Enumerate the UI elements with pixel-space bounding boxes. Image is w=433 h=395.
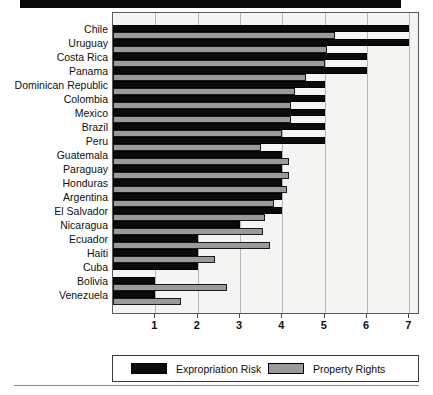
y-axis-label: Cuba (83, 261, 108, 273)
bar-expropriation-risk (113, 151, 282, 158)
y-axis-label: Uruguay (68, 37, 108, 49)
x-tick-7 (408, 314, 409, 318)
bars-layer (113, 13, 418, 313)
legend-item-property-rights: Property Rights (268, 356, 385, 381)
legend-item-expropriation-risk: Expropriation Risk (131, 356, 261, 381)
y-axis-label: El Salvador (54, 205, 108, 217)
bar-expropriation-risk (113, 165, 282, 172)
bar-expropriation-risk (113, 207, 282, 214)
bar-property-rights (113, 298, 181, 305)
y-axis-label: Nicaragua (60, 219, 108, 231)
bar-expropriation-risk (113, 291, 155, 298)
x-tick-label: 4 (269, 319, 293, 331)
y-axis-label: Bolivia (77, 275, 108, 287)
x-tick-4 (281, 314, 282, 318)
x-tick-label: 3 (227, 319, 251, 331)
chart-figure: ChileUruguayCosta RicaPanamaDominican Re… (0, 0, 433, 395)
legend-swatch-black (131, 363, 167, 374)
y-axis-label: Colombia (64, 93, 108, 105)
bar-expropriation-risk (113, 53, 367, 60)
plot-wrapper: ChileUruguayCosta RicaPanamaDominican Re… (0, 12, 433, 314)
bar-expropriation-risk (113, 179, 282, 186)
bar-expropriation-risk (113, 277, 155, 284)
legend-label: Property Rights (313, 363, 385, 375)
plot-area (112, 12, 419, 314)
bar-expropriation-risk (113, 67, 367, 74)
x-tick-2 (197, 314, 198, 318)
x-tick-5 (324, 314, 325, 318)
bar-expropriation-risk (113, 95, 325, 102)
y-axis-label: Dominican Republic (15, 79, 108, 91)
bar-expropriation-risk (113, 193, 282, 200)
x-tick-6 (366, 314, 367, 318)
x-tick-label: 5 (312, 319, 336, 331)
x-tick-label: 1 (142, 319, 166, 331)
top-rule-divider (20, 0, 401, 8)
legend-label: Expropriation Risk (176, 363, 261, 375)
y-axis-label: Guatemala (57, 149, 108, 161)
bar-expropriation-risk (113, 263, 198, 270)
bar-expropriation-risk (113, 221, 240, 228)
y-axis-label: Venezuela (59, 289, 108, 301)
y-axis-label: Costa Rica (57, 51, 108, 63)
y-axis-label: Argentina (63, 191, 108, 203)
y-axis-label: Panama (69, 65, 108, 77)
bar-expropriation-risk (113, 249, 198, 256)
x-tick-label: 6 (354, 319, 378, 331)
y-axis-labels: ChileUruguayCosta RicaPanamaDominican Re… (0, 12, 110, 314)
bar-expropriation-risk (113, 81, 325, 88)
bar-expropriation-risk (113, 235, 198, 242)
bar-expropriation-risk (113, 109, 325, 116)
y-axis-label: Paraguay (63, 163, 108, 175)
x-tick-1 (154, 314, 155, 318)
y-axis-label: Mexico (75, 107, 108, 119)
bar-expropriation-risk (113, 137, 325, 144)
y-axis-label: Chile (84, 23, 108, 35)
x-tick-3 (239, 314, 240, 318)
chart-legend: Expropriation RiskProperty Rights (112, 355, 419, 382)
x-tick-label: 2 (185, 319, 209, 331)
bar-expropriation-risk (113, 25, 409, 32)
x-axis: 1234567 (112, 314, 419, 336)
legend-swatch-gray (268, 363, 304, 374)
y-axis-label: Peru (86, 135, 108, 147)
y-axis-label: Haiti (87, 247, 108, 259)
y-axis-label: Brazil (82, 121, 108, 133)
bottom-rule-divider (14, 385, 419, 386)
y-axis-label: Honduras (62, 177, 108, 189)
bar-expropriation-risk (113, 123, 325, 130)
x-tick-label: 7 (396, 319, 420, 331)
bar-expropriation-risk (113, 39, 409, 46)
y-axis-label: Ecuador (69, 233, 108, 245)
